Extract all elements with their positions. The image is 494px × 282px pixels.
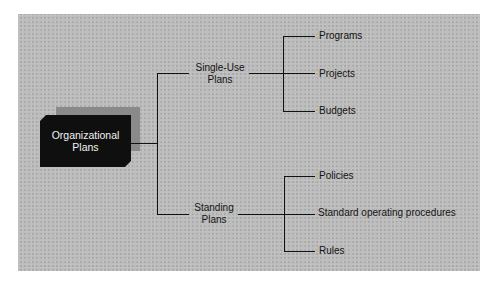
connector-single-use-horizontal xyxy=(249,73,283,74)
connector-sop xyxy=(284,214,315,215)
leaf-policies: Policies xyxy=(319,170,353,182)
leaf-standard-operating-procedures: Standard operating procedures xyxy=(318,207,456,219)
root-label-line2: Plans xyxy=(72,141,98,153)
branch-label-line2: Plans xyxy=(187,214,241,226)
branch-standing-plans: Standing Plans xyxy=(187,202,241,226)
connector-standing-horizontal xyxy=(238,214,284,215)
branch-single-use-plans: Single-Use Plans xyxy=(190,62,250,86)
connector-budgets xyxy=(283,111,315,112)
leaf-budgets: Budgets xyxy=(319,105,356,117)
connector-programs xyxy=(283,36,315,37)
connector-root-vertical xyxy=(157,73,158,215)
leaf-rules: Rules xyxy=(319,245,345,257)
branch-label-line1: Standing xyxy=(187,202,241,214)
connector-policies xyxy=(284,176,315,177)
connector-root-horizontal xyxy=(131,143,158,144)
connector-to-standing xyxy=(157,214,189,215)
connector-to-single-use xyxy=(157,73,189,74)
leaf-programs: Programs xyxy=(319,30,362,42)
connector-rules xyxy=(284,251,315,252)
root-label-line1: Organizational xyxy=(52,129,120,141)
branch-label-line2: Plans xyxy=(190,74,250,86)
connector-projects xyxy=(283,73,315,74)
branch-label-line1: Single-Use xyxy=(190,62,250,74)
leaf-projects: Projects xyxy=(319,68,355,80)
root-node-organizational-plans: Organizational Plans xyxy=(40,115,131,167)
